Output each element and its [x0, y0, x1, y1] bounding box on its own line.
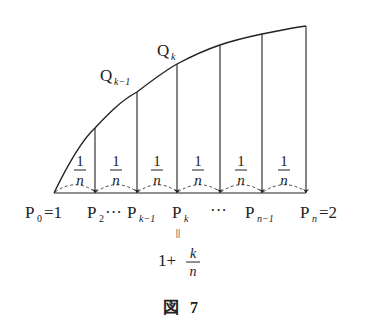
svg-text:n: n [153, 172, 161, 188]
fraction-1-over-n: 1 n [151, 153, 163, 188]
svg-text:P: P [172, 203, 181, 222]
label-p2: P 2 ··· [87, 203, 122, 224]
svg-text:1+: 1+ [158, 251, 176, 270]
svg-text:Q: Q [100, 66, 112, 85]
svg-text:n: n [280, 172, 288, 188]
point-labels: P 0 =1 P 2 ··· P k−1 P k ··· P n−1 P n =… [25, 201, 337, 224]
svg-text:P: P [25, 203, 34, 222]
label-p-k-minus-1: P k−1 [127, 203, 155, 224]
fraction-1-over-n: 1 n [235, 153, 247, 188]
svg-text:P: P [87, 203, 96, 222]
svg-text:k−1: k−1 [114, 76, 130, 87]
width-arcs [55, 185, 305, 192]
svg-text:1: 1 [112, 153, 120, 169]
segment-width-labels: 1 n 1 n 1 n 1 n 1 n 1 n [74, 153, 290, 188]
figure-caption: 図 7 [163, 299, 198, 316]
svg-text:k: k [190, 246, 197, 261]
riemann-sum-diagram: 1 n 1 n 1 n 1 n 1 n 1 n [0, 0, 365, 334]
label-p-k: P k [172, 203, 189, 224]
svg-text:1: 1 [153, 153, 161, 169]
label-ellipsis: ··· [210, 201, 227, 220]
svg-text:Q: Q [157, 41, 169, 60]
svg-text:n: n [237, 172, 245, 188]
svg-text:1: 1 [280, 153, 288, 169]
svg-text:7: 7 [190, 299, 198, 316]
svg-text:n: n [190, 264, 197, 279]
fraction-1-over-n: 1 n [278, 153, 290, 188]
svg-text:=1: =1 [44, 203, 62, 222]
label-p-n: P n =2 [300, 203, 337, 224]
svg-text:···: ··· [210, 201, 227, 220]
svg-text:n: n [76, 172, 84, 188]
svg-text:||: || [176, 226, 180, 238]
label-p0: P 0 =1 [25, 203, 62, 224]
fraction-1-over-n: 1 n [74, 153, 86, 188]
fraction-1-over-n: 1 n [110, 153, 122, 188]
pk-value: || 1+ k n [158, 226, 200, 279]
svg-text:P: P [127, 203, 136, 222]
svg-text:1: 1 [237, 153, 245, 169]
svg-text:n−1: n−1 [257, 213, 274, 224]
label-q-k: Q k [157, 41, 176, 62]
svg-text:1: 1 [194, 153, 202, 169]
svg-text:=2: =2 [319, 203, 337, 222]
svg-text:図: 図 [163, 299, 179, 316]
svg-text:P: P [245, 203, 254, 222]
svg-text:k−1: k−1 [139, 213, 155, 224]
svg-text:n: n [312, 213, 317, 224]
label-q-k-minus-1: Q k−1 [100, 66, 130, 87]
svg-text:n: n [194, 172, 202, 188]
svg-text:n: n [112, 172, 120, 188]
svg-text:···: ··· [105, 203, 122, 222]
svg-text:k: k [171, 51, 176, 62]
svg-text:0: 0 [37, 213, 42, 224]
svg-text:2: 2 [99, 213, 104, 224]
fraction-1-over-n: 1 n [192, 153, 204, 188]
svg-text:P: P [300, 203, 309, 222]
svg-text:1: 1 [76, 153, 84, 169]
curve [54, 26, 306, 193]
label-p-n-minus-1: P n−1 [245, 203, 274, 224]
svg-text:k: k [184, 213, 189, 224]
